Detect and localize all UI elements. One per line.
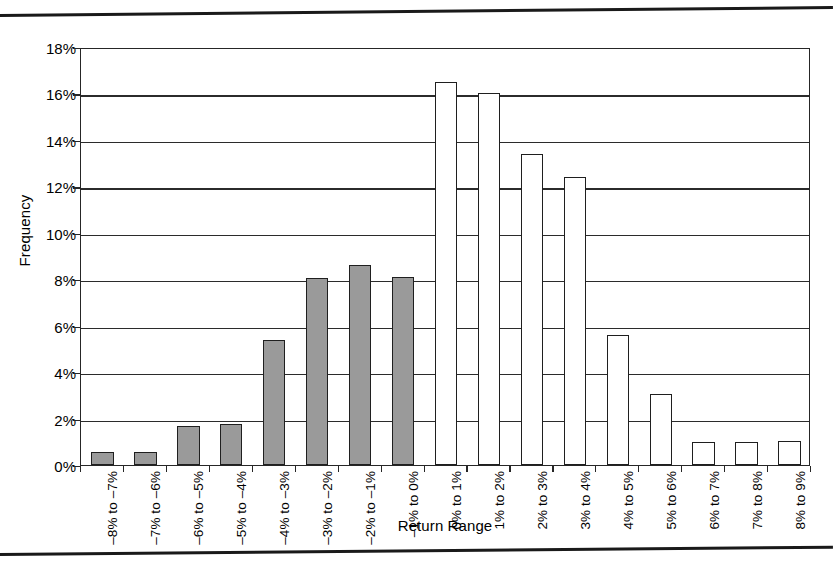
x-axis-tickmark	[681, 466, 682, 472]
y-axis-tickmark	[73, 373, 80, 374]
y-axis-tickmark	[73, 48, 80, 49]
bar-series	[81, 49, 809, 465]
y-axis-tickmark	[73, 280, 80, 281]
y-axis-tickmark	[73, 187, 80, 188]
x-axis-tick-label: 0% to 1%	[450, 471, 464, 557]
x-axis-tickmarks	[80, 466, 810, 473]
x-axis-tick-label: 4% to 5%	[622, 471, 636, 557]
y-axis-tickmark	[73, 141, 80, 142]
x-axis-tickmark	[252, 466, 253, 472]
bar	[564, 177, 586, 465]
x-axis-tick-label: –2% to –1%	[364, 471, 378, 557]
bar	[134, 452, 156, 465]
plot-area	[80, 48, 810, 466]
bar	[650, 394, 672, 465]
y-axis-tickmarks	[72, 48, 80, 466]
histogram-chart: Frequency 0%2%4%6%8%10%12%14%16%18% –8% …	[10, 30, 823, 535]
x-axis-tickmark	[424, 466, 425, 472]
x-axis-title: Return Range	[80, 517, 810, 534]
x-axis-tick-label: 3% to 4%	[579, 471, 593, 557]
y-axis-tick-label: 4%	[24, 366, 76, 381]
y-axis-tick-label: 14%	[24, 133, 76, 148]
y-axis-tick-label: 12%	[24, 180, 76, 195]
y-axis-tick-label: 16%	[24, 87, 76, 102]
x-axis-tickmark	[638, 466, 639, 472]
figure: Frequency 0%2%4%6%8%10%12%14%16%18% –8% …	[0, 0, 833, 567]
x-axis-tick-label: 5% to 6%	[665, 471, 679, 557]
y-axis-tick-label: 18%	[24, 41, 76, 56]
x-axis-tickmark	[724, 466, 725, 472]
x-axis-tick-label: –8% to –7%	[106, 471, 120, 557]
bar	[521, 154, 543, 465]
y-axis-tickmark	[73, 420, 80, 421]
y-axis-tickmark	[73, 234, 80, 235]
bar	[478, 93, 500, 465]
y-axis-tickmark	[73, 94, 80, 95]
x-axis-tick-label: 2% to 3%	[536, 471, 550, 557]
bar	[735, 442, 757, 465]
x-axis-tickmark	[552, 466, 553, 472]
bar	[692, 442, 714, 465]
y-axis-tickmark	[73, 466, 80, 467]
y-axis-tickmark	[73, 327, 80, 328]
x-axis-tickmark	[381, 466, 382, 472]
x-axis-tickmark	[166, 466, 167, 472]
y-axis-tick-label: 2%	[24, 412, 76, 427]
y-axis-tick-label: 8%	[24, 273, 76, 288]
x-axis-tick-label: –3% to –2%	[321, 471, 335, 557]
x-axis-tick-label: –4% to –3%	[278, 471, 292, 557]
y-axis-tick-label: 10%	[24, 226, 76, 241]
page-rule-top	[0, 6, 833, 17]
y-axis-tick-labels: 0%2%4%6%8%10%12%14%16%18%	[24, 30, 76, 466]
y-axis-tick-label: 6%	[24, 319, 76, 334]
bar	[220, 424, 242, 465]
bar	[349, 265, 371, 465]
bar	[392, 277, 414, 465]
x-axis-tickmark	[595, 466, 596, 472]
x-axis-tickmark	[123, 466, 124, 472]
bar	[607, 335, 629, 465]
x-axis-tick-label: 6% to 7%	[708, 471, 722, 557]
x-axis-tickmark	[466, 466, 467, 472]
x-axis-tickmark	[810, 466, 811, 472]
x-axis-tick-label: –5% to –4%	[235, 471, 249, 557]
x-axis-tickmark	[80, 466, 81, 472]
x-axis-tickmark	[295, 466, 296, 472]
x-axis-tickmark	[767, 466, 768, 472]
x-axis-tick-label: –1% to 0%	[407, 471, 421, 557]
y-axis-tick-label: 0%	[24, 459, 76, 474]
bar	[91, 452, 113, 465]
bar	[778, 441, 800, 465]
x-axis-tick-label: 7% to 8%	[751, 471, 765, 557]
x-axis-tick-label: 8% to 9%	[794, 471, 808, 557]
x-axis-tick-label: –7% to –6%	[149, 471, 163, 557]
x-axis-tick-label: –6% to –5%	[192, 471, 206, 557]
x-axis-tickmark	[338, 466, 339, 472]
bar	[435, 82, 457, 465]
x-axis-tick-labels: –8% to –7%–7% to –6%–6% to –5%–5% to –4%…	[80, 473, 810, 545]
bar	[306, 278, 328, 465]
x-axis-tickmark	[509, 466, 510, 472]
bar	[177, 426, 199, 465]
x-axis-tick-label: 1% to 2%	[493, 471, 507, 557]
bar	[263, 340, 285, 465]
x-axis-tickmark	[209, 466, 210, 472]
